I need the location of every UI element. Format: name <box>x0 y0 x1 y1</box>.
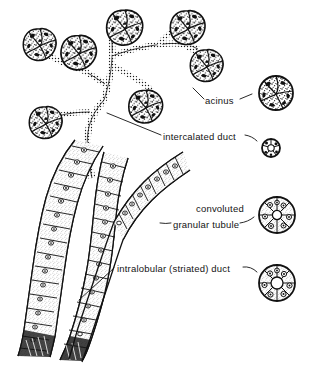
label-acinus: acinus <box>205 95 234 106</box>
acinus-7 <box>190 50 223 82</box>
acinus-3 <box>29 107 62 139</box>
acinus-2 <box>61 35 96 69</box>
label-granular-tubule: granular tubule <box>173 219 239 230</box>
figure-caption <box>6 355 306 365</box>
inset-striated-duct-cross-section <box>259 265 295 301</box>
leader-granular-left <box>160 223 171 224</box>
acinus-6 <box>129 90 163 123</box>
acinus-4 <box>107 10 143 45</box>
label-intercalated-duct: intercalated duct <box>163 131 236 142</box>
inset-granular-tubule-cross-section <box>259 197 295 233</box>
label-intralobular-striated-duct: intralobular (striated) duct <box>117 263 230 274</box>
label-convoluted: convoluted <box>196 203 244 214</box>
acinus-5 <box>170 11 205 45</box>
inset-acinus-cross-section <box>259 76 293 110</box>
acinus-1 <box>23 29 56 61</box>
salivary-gland-diagram <box>0 0 309 365</box>
inset-intercalated-duct-cross-section <box>262 139 280 157</box>
